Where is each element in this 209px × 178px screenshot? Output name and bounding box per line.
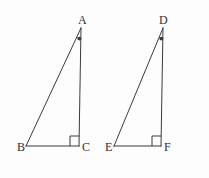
triangle-abc: A B C: [17, 13, 90, 154]
triangle-def-edge-fd: [161, 28, 163, 146]
geometry-figure-canvas: A B C D E F: [0, 0, 209, 178]
triangle-def-edge-de: [114, 28, 163, 146]
vertex-label-e: E: [105, 140, 112, 154]
triangle-abc-edge-ca: [79, 28, 81, 146]
angle-dot-a: [78, 37, 82, 41]
right-angle-mark-f: [152, 136, 161, 146]
vertex-label-a: A: [78, 13, 87, 27]
vertex-label-f: F: [164, 140, 171, 154]
geometry-figure-svg: A B C D E F: [0, 0, 209, 178]
vertex-label-b: B: [17, 140, 25, 154]
triangle-abc-edge-ab: [26, 28, 81, 146]
vertex-label-c: C: [82, 140, 90, 154]
vertex-label-d: D: [159, 13, 168, 27]
right-angle-mark-c: [70, 136, 79, 146]
triangle-def: D E F: [105, 13, 171, 154]
angle-dot-d: [160, 37, 164, 41]
